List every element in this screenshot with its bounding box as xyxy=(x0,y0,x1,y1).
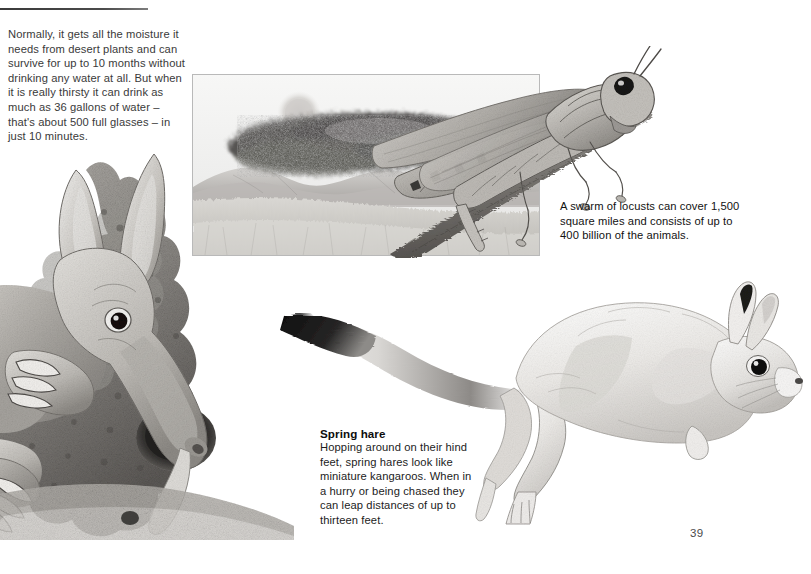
page-number: 39 xyxy=(690,527,704,539)
book-page: Normally, it gets all the moisture it ne… xyxy=(0,0,811,574)
body-text-paragraph: Normally, it gets all the moisture it ne… xyxy=(8,27,188,144)
spring-hare-caption: Hopping around on their hind feet, sprin… xyxy=(320,440,480,528)
locust-caption: A swarm of locusts can cover 1,500 squar… xyxy=(560,199,745,243)
top-rule-divider xyxy=(0,8,148,10)
spring-hare-heading: Spring hare xyxy=(320,427,386,440)
